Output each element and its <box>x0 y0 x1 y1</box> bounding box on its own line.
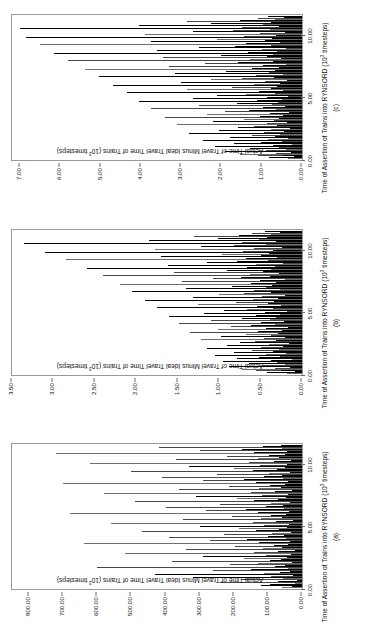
bar <box>280 356 302 357</box>
bar <box>66 259 302 260</box>
bar <box>132 291 302 292</box>
bar <box>252 233 302 234</box>
panel-b-y-tick-label: 1.00 <box>215 383 221 395</box>
bar <box>275 70 302 71</box>
bar <box>285 295 302 296</box>
panel-c-y-tick-mark <box>180 163 181 167</box>
bar <box>103 275 302 276</box>
bar <box>279 67 302 68</box>
panel-c-y-tick-label: 5.00 <box>97 168 103 180</box>
panel-c-y-tick-mark <box>99 163 100 167</box>
bar <box>230 137 303 138</box>
bar <box>257 306 302 307</box>
bar <box>163 57 302 58</box>
bar <box>256 530 302 531</box>
bar <box>284 508 302 509</box>
bar <box>268 260 302 261</box>
panel-b-x-tick-label: 10.00 <box>307 243 313 258</box>
bar <box>285 454 302 455</box>
bar <box>270 276 302 277</box>
panel-a-y-tick-mark <box>96 592 97 596</box>
bar <box>287 557 302 558</box>
bar <box>189 466 302 467</box>
bar <box>279 529 302 530</box>
bar <box>267 373 302 374</box>
panel-a-x-tick-mark <box>301 527 305 528</box>
bar <box>242 78 302 79</box>
bar <box>269 158 302 159</box>
bar <box>193 31 302 32</box>
bar <box>207 114 302 115</box>
bar <box>155 249 302 250</box>
bar <box>217 474 302 475</box>
bar <box>259 542 302 543</box>
bar <box>166 507 302 508</box>
bar <box>234 468 302 469</box>
bar <box>207 262 302 263</box>
panel-c-x-tick-mark <box>301 98 305 99</box>
bar <box>218 329 303 330</box>
bar <box>285 32 302 33</box>
bar <box>273 351 302 352</box>
panel-a-y-tick-label: 100.00 <box>264 597 270 616</box>
bar <box>186 288 302 289</box>
bar <box>267 237 302 238</box>
bar <box>239 528 302 529</box>
bar <box>198 304 302 305</box>
bar <box>270 560 302 561</box>
bar <box>249 110 302 111</box>
bar <box>193 297 302 298</box>
bar <box>263 446 302 447</box>
bar <box>196 496 302 497</box>
bar <box>267 123 302 124</box>
bar <box>224 534 302 535</box>
bar <box>120 284 302 285</box>
bar <box>246 509 302 510</box>
bar <box>226 71 302 72</box>
bar <box>24 243 302 244</box>
figure-canvas: 0.00100.00200.00300.00400.00500.00600.00… <box>0 0 385 644</box>
bar <box>241 277 302 278</box>
bar <box>281 445 302 446</box>
bar <box>159 447 302 448</box>
bar <box>224 310 302 311</box>
bar <box>275 93 302 94</box>
bar <box>201 339 302 340</box>
bar <box>85 69 303 70</box>
bar <box>263 107 302 108</box>
bar <box>288 96 302 97</box>
bar <box>272 104 302 105</box>
bar <box>280 314 302 315</box>
bar <box>145 300 302 301</box>
panel-a-x-tick-label: 5.00 <box>307 521 313 533</box>
bar <box>273 250 302 251</box>
bar <box>217 95 302 96</box>
bar <box>278 102 302 103</box>
bar <box>215 355 302 356</box>
bar <box>275 266 302 267</box>
bar <box>190 332 302 333</box>
panel-a-y-tick-mark <box>130 592 131 596</box>
bar <box>271 335 302 336</box>
bar <box>161 256 302 257</box>
bar <box>268 536 302 537</box>
bar <box>242 27 302 28</box>
bar <box>270 29 302 30</box>
bar <box>220 504 302 505</box>
panel-b-y-tick-mark <box>176 378 177 382</box>
panel-a-y-tick-mark <box>266 592 267 596</box>
bar <box>251 569 302 570</box>
bar <box>266 328 302 329</box>
bar <box>135 501 302 502</box>
panel-a-y-tick-mark <box>198 592 199 596</box>
bar <box>40 44 302 45</box>
bar <box>127 92 302 93</box>
bar <box>139 25 302 26</box>
bar <box>254 500 302 501</box>
bar <box>254 452 302 453</box>
bar <box>280 83 302 84</box>
bar <box>168 265 302 266</box>
bar <box>269 344 302 345</box>
bar <box>234 143 302 144</box>
panel-a-y-tick-label: 0.00 <box>298 597 304 609</box>
